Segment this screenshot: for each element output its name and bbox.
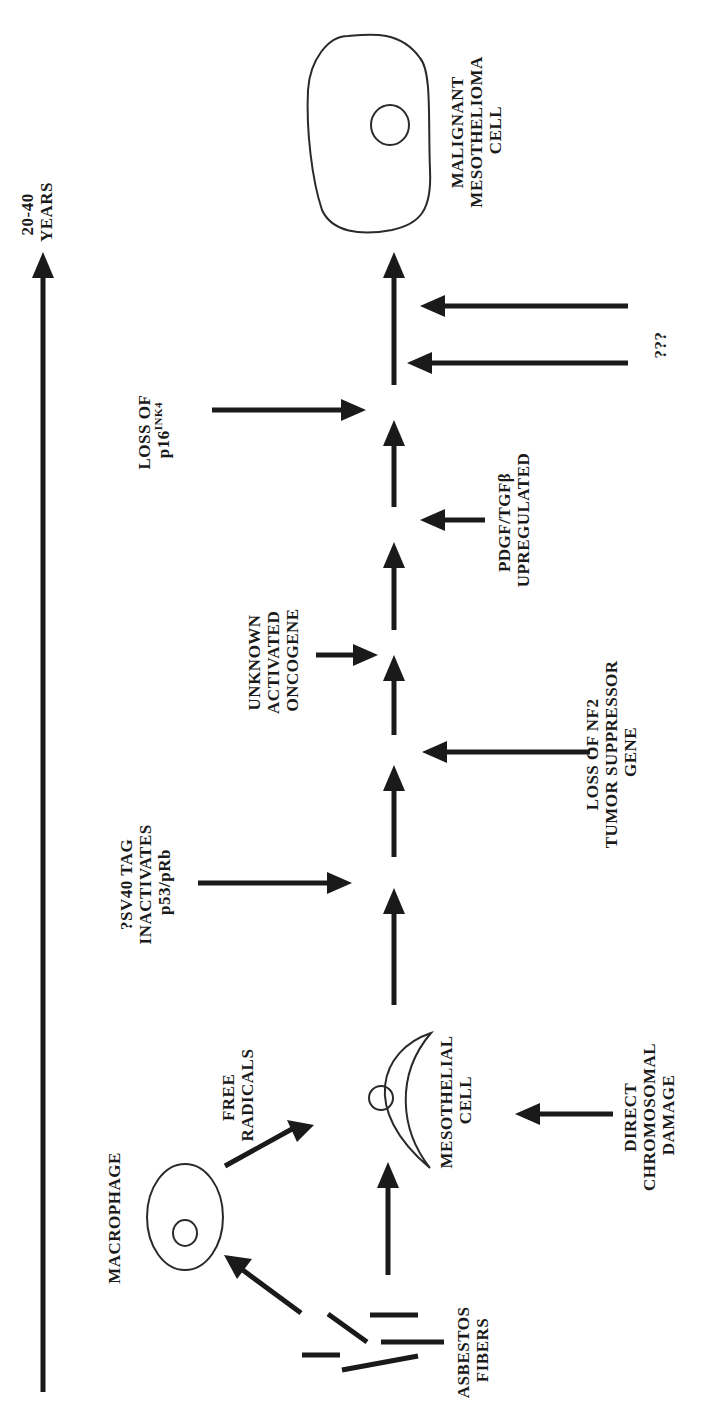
p16-arrow <box>212 399 366 421</box>
asbestos-fibers-label: ASBESTOS FIBERS <box>454 1302 492 1398</box>
mesothelial-cell-label: MESOTHELIAL CELL <box>437 1032 475 1169</box>
asbestos-to-macrophage-arrow <box>224 1255 301 1313</box>
asbestos-fibers-icon <box>302 1314 444 1370</box>
free-radicals-label: FREE RADICALS <box>219 1049 257 1142</box>
p16-label: LOSS OF p16INK4 <box>135 391 173 470</box>
direct-damage-arrow <box>515 1103 613 1125</box>
oncogene-arrow <box>316 644 378 666</box>
pdgf-arrow <box>420 509 485 531</box>
sv40-arrow <box>198 872 352 894</box>
timeline-label: 20-40 YEARS <box>18 182 56 242</box>
sv40-label: ?SV40 TAG INACTIVATES p53/pRb <box>117 820 174 945</box>
unknown-factors-arrows <box>407 295 628 374</box>
timeline-arrow <box>32 252 54 1392</box>
macrophage-icon <box>147 1164 223 1270</box>
pdgf-label: PDGF/TGFβ UPREGULATED <box>495 453 533 588</box>
mesothelioma-pathway-diagram: 20-40 YEARS MALIGNANT MESOTHELIOMA CELL <box>0 0 710 1425</box>
unknown-factors-label: ??? <box>651 332 670 359</box>
nf2-label: LOSS OF NF2 TUMOR SUPPRESSOR GENE <box>583 656 640 849</box>
mesothelial-cell-icon <box>369 1033 431 1168</box>
direct-damage-label: DIRECT CHROMOSOMAL DAMAGE <box>621 1039 678 1191</box>
malignant-cell-label: MALIGNANT MESOTHELIOMA CELL <box>448 52 505 207</box>
oncogene-label: UNKNOWN ACTIVATED ONCOGENE <box>245 606 302 714</box>
nf2-arrow <box>422 741 590 763</box>
macrophage-label: MACROPHAGE <box>105 1152 124 1284</box>
malignant-cell-icon <box>308 35 431 233</box>
